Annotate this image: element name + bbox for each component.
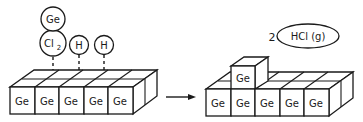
- hcl-product: 2 HCl (g): [269, 24, 340, 48]
- gecl2-molecule: Ge Cl 2: [40, 7, 66, 56]
- before-panel: Ge Ge Ge Ge Ge Ge Cl 2 H H: [10, 7, 157, 114]
- svg-text:Ge: Ge: [309, 98, 323, 109]
- after-panel: 2 HCl (g) Ge Ge Ge Ge: [206, 24, 353, 116]
- svg-text:H: H: [100, 40, 108, 51]
- svg-text:Cl: Cl: [44, 38, 54, 49]
- svg-text:Ge: Ge: [285, 98, 299, 109]
- svg-text:Ge: Ge: [260, 98, 274, 109]
- surface-atom-row: Ge Ge Ge Ge Ge: [10, 87, 133, 114]
- svg-text:Ge: Ge: [89, 96, 103, 107]
- svg-text:Ge: Ge: [15, 96, 29, 107]
- svg-text:Ge: Ge: [236, 73, 250, 84]
- hydrogen-atom: H: [95, 36, 114, 55]
- reaction-diagram: Ge Ge Ge Ge Ge Ge Cl 2 H H 2: [0, 0, 363, 122]
- svg-text:Ge: Ge: [236, 98, 250, 109]
- svg-text:Ge: Ge: [46, 14, 60, 25]
- svg-text:HCl (g): HCl (g): [291, 31, 326, 42]
- hydrogen-atom: H: [70, 36, 89, 55]
- svg-text:Ge: Ge: [211, 98, 225, 109]
- reaction-arrow-icon: [166, 94, 196, 100]
- svg-text:H: H: [75, 40, 83, 51]
- svg-text:2: 2: [57, 44, 61, 52]
- svg-text:Ge: Ge: [64, 96, 78, 107]
- svg-text:Ge: Ge: [113, 96, 127, 107]
- svg-text:2: 2: [269, 31, 276, 44]
- deposited-ge-cube: Ge: [231, 57, 268, 89]
- svg-text:Ge: Ge: [40, 96, 54, 107]
- surface-atom-row: Ge Ge Ge Ge Ge: [206, 89, 329, 116]
